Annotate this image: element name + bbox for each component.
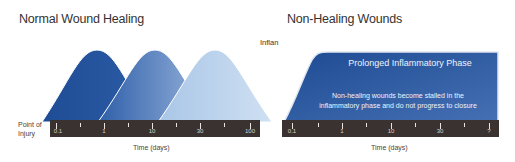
panel-title: Prolonged Inflammatory Phase xyxy=(320,58,500,68)
right-title: Non-Healing Wounds xyxy=(287,12,402,26)
right-x-label: Time (days) xyxy=(371,144,408,151)
left-time-axis: 0.1 1 10 30 100 xyxy=(50,120,260,137)
panel-description: Non-healing wounds become stalled in the… xyxy=(296,91,500,111)
left-title: Normal Wound Healing xyxy=(19,12,144,26)
right-time-axis: 0.1 1 10 30 ? xyxy=(282,120,499,137)
normal-healing-curves xyxy=(40,50,275,122)
y-axis-label: Point of Injury xyxy=(18,120,42,138)
cut-label: Inflan xyxy=(260,38,278,47)
left-x-label: Time (days) xyxy=(133,144,170,151)
